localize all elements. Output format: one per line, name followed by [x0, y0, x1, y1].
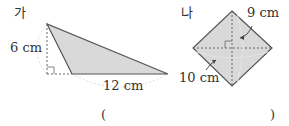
- answer-open-paren: (: [101, 108, 106, 121]
- rhombus-diagonal2-label: 10 cm: [179, 71, 219, 84]
- figure-label-na: 나: [181, 6, 193, 19]
- triangle-height-label: 6 cm: [10, 41, 42, 54]
- rhombus-diagonal1-label: 9 cm: [247, 6, 279, 19]
- figures-canvas: [0, 0, 289, 126]
- triangle-base-label: 12 cm: [103, 79, 143, 92]
- figure-label-ga: 가: [14, 6, 26, 19]
- answer-close-paren: ): [270, 108, 275, 121]
